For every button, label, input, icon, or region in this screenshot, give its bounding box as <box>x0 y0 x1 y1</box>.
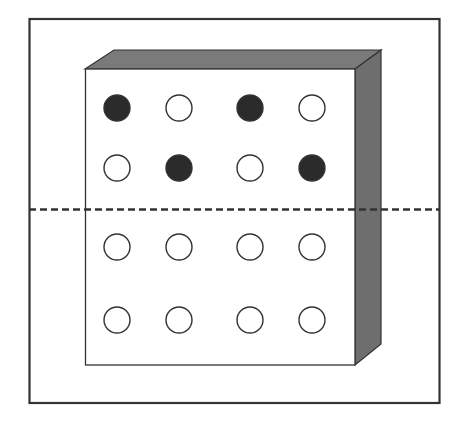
filled-circle <box>299 155 325 181</box>
empty-circle <box>299 307 325 333</box>
empty-circle <box>237 307 263 333</box>
empty-circle <box>166 234 192 260</box>
empty-circle <box>237 155 263 181</box>
filled-circle <box>166 155 192 181</box>
box-right-face <box>355 50 381 365</box>
diagram-canvas <box>0 0 454 423</box>
empty-circle <box>166 95 192 121</box>
empty-circle <box>104 155 130 181</box>
empty-circle <box>104 234 130 260</box>
empty-circle <box>299 95 325 121</box>
box-top-face <box>85 50 381 69</box>
filled-circle <box>237 95 263 121</box>
empty-circle <box>237 234 263 260</box>
empty-circle <box>166 307 192 333</box>
empty-circle <box>299 234 325 260</box>
filled-circle <box>104 95 130 121</box>
empty-circle <box>104 307 130 333</box>
